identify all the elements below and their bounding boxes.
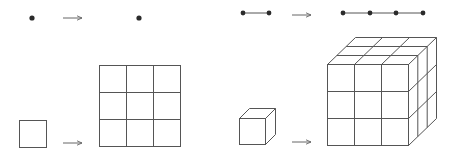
scaling-dimension-diagram (0, 0, 453, 155)
segment-scaled (341, 11, 426, 16)
point-original (29, 15, 34, 20)
panel-segment (241, 11, 426, 16)
panel-cube (240, 38, 437, 146)
point-scaled (136, 15, 141, 20)
panel-square (20, 66, 181, 148)
cube-grid-scaled (328, 38, 437, 146)
cube-original (240, 109, 276, 145)
square-grid-scaled (100, 66, 181, 147)
square-original (20, 121, 47, 148)
segment-original (241, 11, 272, 16)
panel-point (29, 15, 141, 20)
